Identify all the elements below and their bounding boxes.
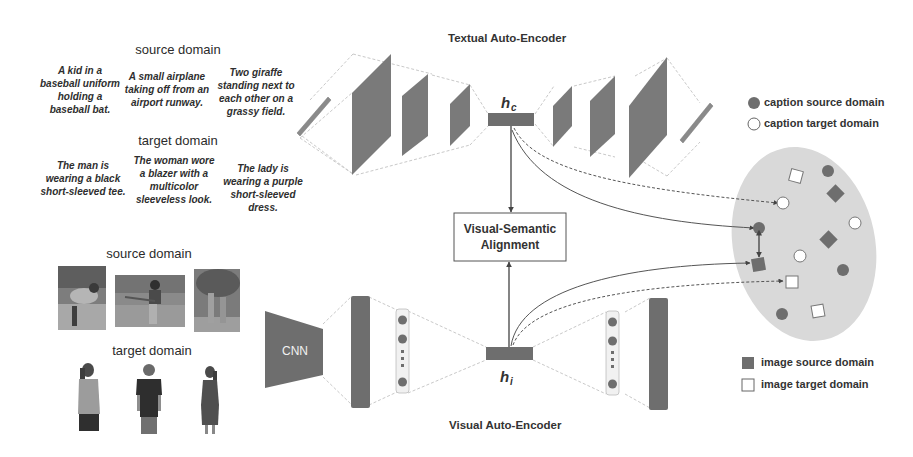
hi-subscript: i	[510, 376, 513, 387]
visual-ae-title: Visual Auto-Encoder	[449, 419, 561, 431]
legend-image-target-icon	[742, 379, 754, 391]
caption-target-point	[849, 217, 861, 229]
legend-caption-target-label: caption target domain	[764, 117, 879, 129]
legend-caption-target-icon	[748, 118, 760, 130]
text-encoder-layer-1	[352, 54, 391, 175]
text-encoder-layer-2	[402, 74, 428, 156]
visual-latent-hi	[486, 347, 533, 360]
embedding-space	[714, 133, 894, 354]
text-decoder-layer-3	[629, 57, 667, 178]
image-target-point	[789, 169, 804, 184]
visual-decoder-layer	[649, 298, 668, 410]
text-decoder-layer-2	[590, 76, 615, 157]
cnn-label: CNN	[270, 344, 320, 358]
alignment-label-line2: Alignment	[454, 237, 566, 253]
hc-label: h	[501, 94, 510, 111]
caption-source-point	[822, 165, 834, 177]
text-input-embedding	[297, 97, 331, 136]
text-decoder-layer-1	[553, 86, 572, 147]
hi-label: h	[500, 368, 509, 385]
hi-to-image-target-dashed	[513, 281, 783, 345]
legend-caption-source-label: caption source domain	[764, 96, 884, 108]
hc-subscript: c	[511, 102, 517, 113]
text-output-embedding	[680, 103, 713, 143]
caption-target-point	[777, 197, 789, 209]
caption-source-point	[837, 264, 849, 276]
text-encoder-layer-3	[450, 84, 470, 146]
legend-caption-source-icon	[748, 97, 760, 109]
legend-image-source-label: image source domain	[761, 356, 874, 368]
caption-target-point	[794, 250, 806, 262]
textual-ae-title: Textual Auto-Encoder	[448, 32, 566, 44]
hi-to-image-source-solid	[511, 263, 750, 346]
caption-source-point	[776, 308, 788, 320]
visual-encoder-layer	[351, 296, 370, 408]
caption-source-point-aligned	[753, 222, 765, 234]
image-target-point	[786, 276, 798, 288]
legend-image-target-label: image target domain	[761, 378, 869, 390]
legend-image-source-icon	[742, 357, 754, 369]
alignment-label: Visual-Semantic Alignment	[454, 221, 566, 253]
text-latent-hc	[488, 113, 534, 126]
alignment-label-line1: Visual-Semantic	[454, 221, 566, 237]
image-source-point-aligned	[751, 257, 766, 272]
image-target-point	[811, 304, 825, 318]
